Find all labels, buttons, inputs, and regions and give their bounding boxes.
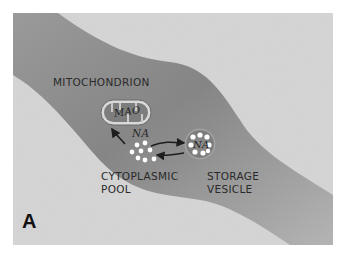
storage-vesicle-label-line2: VESICLE [207, 183, 253, 195]
cytoplasmic-pool-label-line1: CYTOPLASMIC [101, 170, 178, 182]
mitochondrion-label: MITOCHONDRION [53, 76, 150, 88]
na-vesicle-label: NA [193, 139, 210, 151]
neuron-diagram: MITOCHONDRION MAO NA NA CYTOPLASMIC POOL… [0, 0, 341, 255]
storage-vesicle-label-line1: STORAGE [207, 170, 259, 182]
panel-label: A [22, 210, 36, 233]
na-cytoplasmic-label: NA [132, 127, 149, 139]
cytoplasmic-pool-label-line2: POOL [101, 183, 131, 195]
diagram-canvas [0, 0, 341, 255]
